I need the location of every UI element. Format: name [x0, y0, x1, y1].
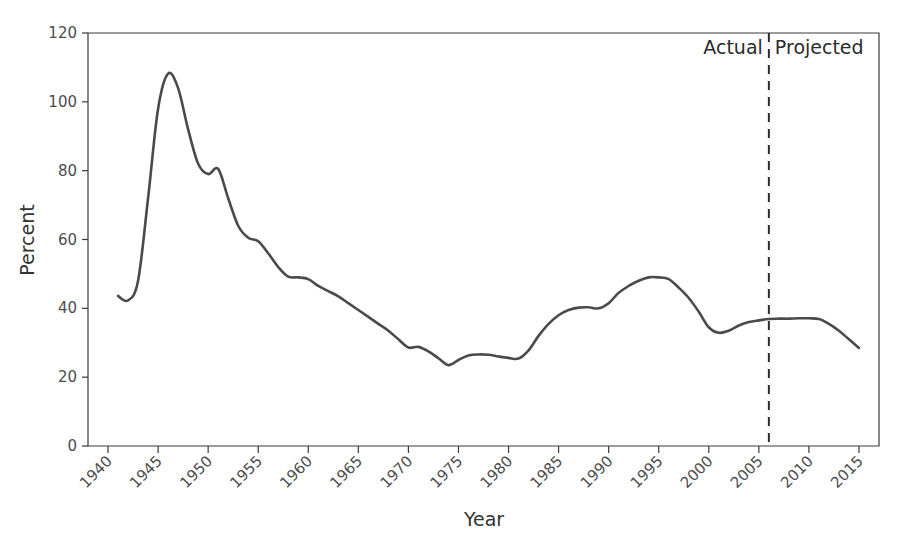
x-tick-label: 2000 [677, 452, 717, 492]
x-tick-label: 2005 [727, 452, 767, 492]
x-tick-label: 1960 [276, 452, 316, 492]
chart-container: 020406080100120 194019451950195519601965… [0, 0, 908, 551]
x-tick-label: 1970 [377, 452, 417, 492]
x-tick-label: 1955 [226, 452, 266, 492]
y-tick-label: 0 [67, 437, 77, 455]
y-tick-label: 100 [48, 93, 77, 111]
x-tick-label: 2010 [777, 452, 817, 492]
data-series-group [118, 73, 859, 365]
y-tick-label: 80 [58, 162, 77, 180]
y-tick-label: 60 [58, 231, 77, 249]
x-tick-label: 1950 [176, 452, 216, 492]
y-tick-label: 40 [58, 299, 77, 317]
x-tick-label: 1980 [477, 452, 517, 492]
x-tick-label: 1940 [76, 452, 116, 492]
x-tick-label: 1995 [627, 452, 667, 492]
x-tick-label: 1975 [427, 452, 467, 492]
y-tick-label: 120 [48, 24, 77, 42]
y-axis-ticks: 020406080100120 [48, 24, 88, 455]
x-axis-title: Year [463, 508, 504, 530]
x-tick-label: 1985 [527, 452, 567, 492]
annotation-group: ActualProjected [703, 33, 863, 446]
data-series-line-0 [118, 73, 859, 365]
x-tick-label: 1965 [326, 452, 366, 492]
line-chart-figure: 020406080100120 194019451950195519601965… [0, 0, 908, 551]
plot-border [88, 33, 879, 446]
x-tick-label: 2015 [827, 452, 867, 492]
actual-label: Actual [703, 36, 763, 58]
projected-label: Projected [775, 36, 864, 58]
plot-frame [88, 33, 879, 446]
y-tick-label: 20 [58, 368, 77, 386]
x-axis-ticks: 1940194519501955196019651970197519801985… [76, 446, 867, 492]
x-tick-label: 1990 [577, 452, 617, 492]
x-tick-label: 1945 [126, 452, 166, 492]
y-axis-title: Percent [16, 204, 38, 276]
